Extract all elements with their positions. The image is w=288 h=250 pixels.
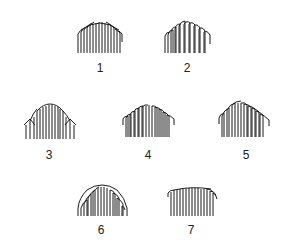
fringe-glyph-2 (164, 20, 211, 54)
figure-4-fringe-shape (122, 103, 175, 138)
fringe-glyph-1 (77, 20, 123, 54)
figure-3-label: 3 (39, 149, 59, 161)
figure-4-label: 4 (138, 149, 158, 161)
figure-2-label: 2 (177, 62, 197, 74)
figure-5-label: 5 (236, 149, 256, 161)
figure-1-fringe-shape (77, 20, 123, 54)
figure-7-label: 7 (181, 224, 201, 236)
figure-3-fringe-shape (23, 103, 77, 140)
fringe-glyph-5 (218, 100, 270, 138)
fringe-glyph-4 (122, 103, 175, 138)
figure-7-fringe-shape (167, 187, 218, 217)
figure-6-fringe-shape (77, 184, 128, 217)
figure-2-fringe-shape (164, 20, 211, 54)
fringe-glyph-7 (167, 187, 218, 217)
fringe-glyph-3 (23, 103, 77, 140)
figure-6-label: 6 (91, 224, 111, 236)
figure-1-label: 1 (90, 62, 110, 74)
fringe-glyph-6 (77, 184, 128, 217)
figure-5-fringe-shape (218, 100, 270, 138)
